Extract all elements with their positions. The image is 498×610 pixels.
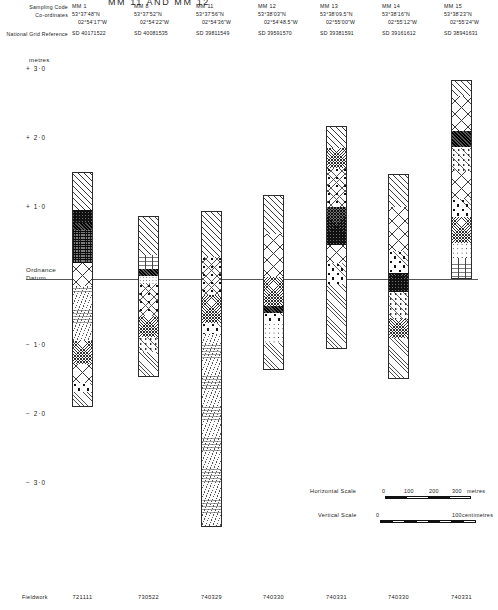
scale-bars: Horizontal Scale 0 100 200 300 metres Ve…: [310, 488, 485, 530]
h-scale-100: 100: [404, 488, 414, 494]
bed-clay: [452, 258, 471, 279]
h-scale-200: 200: [429, 488, 439, 494]
bed-crosshatch: [73, 263, 92, 285]
grid-reference: SD 39381591: [320, 31, 354, 36]
axis-tick-minus1: − 1·0: [26, 341, 46, 348]
fieldwork-value: 730522: [124, 594, 173, 600]
header-label-sampling-code: Sampling Code: [29, 4, 68, 10]
axis-tick-plus2: + 2·0: [26, 134, 46, 141]
vertical-scale-label: Vertical Scale: [318, 512, 357, 518]
fieldwork-value: 721111: [58, 594, 107, 600]
bed-organic: [202, 257, 221, 296]
bed-hatch-fine: [264, 343, 283, 370]
longitude: 02°54'36"W: [202, 20, 231, 25]
lithology-column-mm11: [201, 211, 222, 527]
bed-stipple: [139, 276, 158, 284]
bed-silt: [73, 286, 92, 341]
sampling-code: MM 13: [320, 4, 338, 9]
bed-black: [452, 131, 471, 148]
vertical-scale-bar: [380, 520, 476, 523]
header-row-labels: Sampling Code Co-ordinates National Grid…: [0, 0, 68, 46]
bed-dark: [73, 210, 92, 224]
grid-reference: SD 39811549: [196, 31, 230, 36]
bed-crosshatch: [452, 96, 471, 131]
bed-hatch: [389, 175, 408, 207]
fieldwork-value: 740331: [312, 594, 361, 600]
bed-checker: [452, 217, 471, 243]
ordnance-datum-line: [26, 279, 478, 280]
latitude: 53°38'09.5"N: [320, 12, 353, 17]
bed-black: [139, 269, 158, 276]
bed-hatch: [327, 127, 346, 148]
axis-unit-label: metres: [29, 57, 50, 63]
bed-peat: [73, 230, 92, 263]
longitude: 02°55'24"W: [450, 20, 479, 25]
bed-hatch-fine: [327, 284, 346, 349]
bed-mottle: [389, 292, 408, 318]
lithology-column-mm8: [138, 216, 159, 377]
bed-crosshatch: [264, 234, 283, 277]
bed-hatch-fine: [73, 392, 92, 407]
bed-black: [264, 306, 283, 313]
bed-organic: [327, 168, 346, 207]
sampling-code: MM 15: [444, 4, 462, 9]
grid-reference: SD 38941631: [444, 31, 478, 36]
bed-checker: [202, 295, 221, 323]
bed-hatch-fine: [139, 352, 158, 377]
sampling-code: MM 14: [382, 4, 400, 9]
v-scale-unit: centimetres: [462, 512, 493, 518]
bed-gravel: [389, 251, 408, 273]
fieldwork-value: 740330: [249, 594, 298, 600]
fieldwork-label: Fieldwork: [22, 594, 48, 600]
bed-clay: [139, 255, 158, 269]
sampling-code: MM 12: [258, 4, 276, 9]
bed-crosshatch: [389, 207, 408, 251]
latitude: 53°38'23"N: [444, 12, 472, 17]
longitude: 02°54'48.5"W: [264, 20, 298, 25]
bed-gravel: [327, 263, 346, 284]
fieldwork-value: 740331: [437, 594, 486, 600]
bed-hatch: [264, 196, 283, 235]
bed-sand-dot: [264, 323, 283, 344]
longitude: 02°55'12"W: [388, 20, 417, 25]
bed-gravel: [202, 323, 221, 334]
bed-crosshatch: [73, 364, 92, 383]
longitude: 02°54'22"W: [140, 20, 169, 25]
axis-tick-minus3: − 3·0: [26, 479, 46, 486]
bed-sand-dot: [452, 243, 471, 258]
bed-checker: [264, 277, 283, 306]
lithology-column-mm15: [451, 80, 472, 279]
lithology-column-mm12: [263, 195, 284, 370]
bed-dark: [327, 207, 346, 246]
longitude: 02°55'00"W: [326, 20, 355, 25]
grid-reference: SD 40171522: [72, 31, 106, 36]
bed-gravel: [73, 383, 92, 391]
bed-hatch: [73, 173, 92, 210]
horizontal-scale-label: Horizontal Scale: [310, 488, 356, 494]
ordnance-datum-line1: Ordnance: [26, 266, 56, 274]
v-scale-zero: 0: [376, 512, 379, 518]
bed-mottle: [139, 337, 158, 352]
latitude: 53°38'03"N: [258, 12, 286, 17]
sampling-code: MM 8: [134, 4, 149, 9]
grid-reference: SD 39591570: [258, 31, 292, 36]
latitude: 53°37'52"N: [134, 12, 162, 17]
lithology-column-mm1: [72, 172, 93, 407]
longitude: 02°54'17"W: [78, 20, 107, 25]
fieldwork-value: 740329: [187, 594, 236, 600]
lithology-column-mm13: [326, 126, 347, 350]
bed-hatch: [139, 217, 158, 256]
bed-hatch: [452, 81, 471, 96]
latitude: 53°37'56"N: [196, 12, 224, 17]
bed-crosshatch: [452, 171, 471, 199]
axis-tick-plus1: + 1·0: [26, 203, 46, 210]
grid-reference: SD 39161612: [382, 31, 416, 36]
header-label-coordinates: Co-ordinates: [35, 12, 68, 18]
bed-checker: [139, 316, 158, 337]
bed-checker: [73, 341, 92, 364]
latitude: 53°37'48"N: [72, 12, 100, 17]
h-scale-300: 300: [452, 488, 462, 494]
bed-crosshatch: [327, 245, 346, 263]
v-scale-100: 100: [452, 512, 462, 518]
